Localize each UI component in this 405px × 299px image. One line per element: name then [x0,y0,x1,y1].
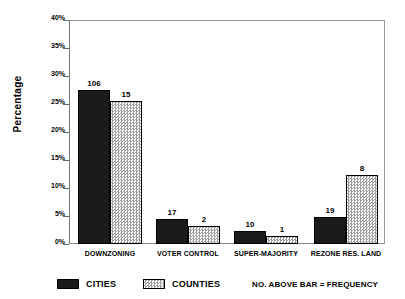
y-axis-tick-label: 20% [25,126,65,133]
bar-value-label: 2 [184,215,224,224]
bar-counties [110,101,142,244]
bar-cities [314,217,346,244]
bar-value-label: 1 [262,225,302,234]
y-axis-tick-label: 15% [25,154,65,161]
bar-group: 172 [156,20,220,244]
bars-layer: 10615172101198 [69,20,385,244]
bar-chart: Percentage 0%5%10%15%20%25%30%35%40% 106… [0,0,405,299]
y-axis-tick-label: 30% [25,70,65,77]
bar-group: 198 [314,20,378,244]
legend-label: CITIES [86,279,116,289]
bar-value-label: 15 [106,90,146,99]
y-axis-tick-label: 5% [25,210,65,217]
chart-legend: NO. ABOVE BAR = FREQUENCY CITIESCOUNTIES [0,277,405,295]
y-axis-tick-label: 25% [25,98,65,105]
bar-group: 10615 [78,20,142,244]
x-axis-labels: DOWNZONINGVOTER CONTROLSUPER-MAJORITYREZ… [69,250,385,264]
y-axis-tick-label: 10% [25,182,65,189]
legend-item: COUNTIES [143,277,220,291]
light-checker-swatch [143,279,165,289]
bar-value-label: 19 [310,206,350,215]
bar-value-label: 8 [342,164,382,173]
y-axis-tick-mark [63,244,69,245]
x-axis-category-label: REZONE RES. LAND [291,250,401,257]
bar-cities [78,90,110,244]
bar-counties [266,236,298,244]
bar-value-label: 106 [74,79,114,88]
y-axis-tick-label: 40% [25,14,65,21]
legend-label: COUNTIES [172,279,220,289]
bar-group: 101 [234,20,298,244]
bar-counties [188,226,220,244]
y-axis-tick-label: 35% [25,42,65,49]
dark-solid-swatch [57,279,79,289]
legend-note: NO. ABOVE BAR = FREQUENCY [252,277,378,291]
y-axis-tick-label: 0% [25,238,65,245]
legend-item: CITIES [57,277,116,291]
bar-counties [346,175,378,244]
